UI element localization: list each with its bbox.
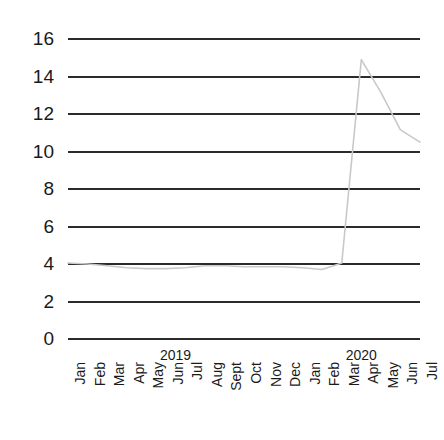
x-axis-month-label: May — [386, 362, 400, 388]
y-axis-tick-label: 0 — [0, 329, 54, 348]
x-axis-month-label: Sept — [229, 362, 243, 391]
x-axis-month-label: Jul — [190, 362, 204, 380]
x-axis-month-label: Jan — [73, 362, 87, 385]
x-axis-month-label: Apr — [366, 362, 380, 384]
y-axis-tick-label: 2 — [0, 291, 54, 310]
x-axis-month-label: Dec — [288, 362, 302, 387]
y-axis-tick-label: 12 — [0, 104, 54, 123]
gridline — [68, 263, 420, 265]
x-axis-month-label: May — [151, 362, 165, 388]
y-axis-tick-label: 8 — [0, 179, 54, 198]
y-axis-tick-label: 6 — [0, 216, 54, 235]
gridline — [68, 38, 420, 40]
gridline — [68, 188, 420, 190]
gridline — [68, 151, 420, 153]
y-axis-tick-label: 10 — [0, 141, 54, 160]
x-axis-year-label: 2019 — [160, 348, 191, 362]
y-axis-tick-label: 14 — [0, 66, 54, 85]
x-axis-month-label: Mar — [112, 362, 126, 386]
gridline — [68, 338, 420, 340]
x-axis-month-label: Jun — [171, 362, 185, 385]
x-axis-month-label: Oct — [249, 362, 263, 384]
x-axis-month-label: Feb — [93, 362, 107, 386]
x-axis-month-label: Aug — [210, 362, 224, 387]
gridline — [68, 113, 420, 115]
gridline — [68, 301, 420, 303]
gridline — [68, 76, 420, 78]
x-axis-month-label: Apr — [132, 362, 146, 384]
gridline — [68, 226, 420, 228]
x-axis-month-label: Feb — [327, 362, 341, 386]
y-axis-tick-label: 16 — [0, 29, 54, 48]
x-axis-month-label: Jun — [405, 362, 419, 385]
y-axis-tick-label: 4 — [0, 254, 54, 273]
x-axis-month-label: Jan — [308, 362, 322, 385]
x-axis-month-label: Nov — [269, 362, 283, 387]
series-line — [68, 60, 420, 270]
line-chart: 0246810121416 JanFebMarAprMayJunJulAugSe… — [0, 0, 444, 440]
x-axis-month-label: Jul — [425, 362, 439, 380]
x-axis-month-label: Mar — [347, 362, 361, 386]
x-axis-year-label: 2020 — [346, 348, 377, 362]
